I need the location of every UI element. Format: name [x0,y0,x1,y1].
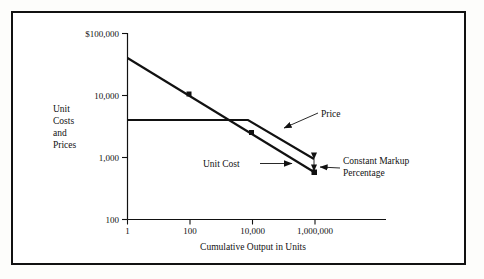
y-axis-title-line-1: Unit [53,104,70,114]
axes [122,33,386,225]
price-leader-line [284,113,318,128]
figure-root: $100,000 10,000 1,000 100 1 100 10,000 1… [0,0,484,279]
y-axis-title-line-3: and [53,128,67,138]
y-axis-title-line-4: Prices [53,140,77,150]
x-tick-label-10000: 10,000 [240,226,265,236]
y-tick-label-100000: $100,000 [85,29,119,39]
annotation-constant-markup-line-2: Percentage [343,168,385,178]
y-tick-label-10000: 10,000 [94,91,119,101]
annotation-unit-cost-label: Unit Cost [203,159,240,169]
annotation-constant-markup: Constant Markup Percentage [320,156,409,178]
annotation-price: Price [284,109,341,128]
y-axis-title: Unit Costs and Prices [53,104,77,150]
series-line-unit-cost [128,58,315,172]
learning-curve-chart: $100,000 10,000 1,000 100 1 100 10,000 1… [0,0,484,279]
x-axis-title: Cumulative Output in Units [200,242,306,252]
data-point-marker [187,92,192,97]
y-tick-label-1000: 1,000 [99,153,120,163]
y-axis-title-line-2: Costs [53,116,74,126]
annotation-unit-cost: Unit Cost [203,159,292,169]
y-tick-marks [122,34,128,220]
y-tick-labels: $100,000 10,000 1,000 100 [85,29,119,225]
annotation-constant-markup-line-1: Constant Markup [343,156,409,166]
x-tick-marks [128,220,316,225]
y-tick-label-100: 100 [106,215,120,225]
series-line-price [128,120,315,159]
x-tick-label-1: 1 [125,226,130,236]
data-point-marker [249,130,254,135]
x-tick-labels: 1 100 10,000 1,000,000 [125,226,333,236]
annotation-price-label: Price [321,109,341,119]
x-tick-label-100: 100 [183,226,197,236]
x-tick-label-1000000: 1,000,000 [297,226,334,236]
constant-markup-leader-line [320,167,340,168]
